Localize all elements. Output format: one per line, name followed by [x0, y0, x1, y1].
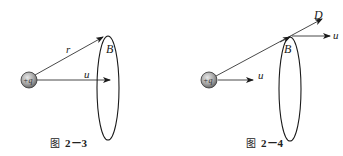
figure-2-3: +q r u B 图 2－3 [21, 36, 119, 149]
charge-label: +q [23, 76, 32, 85]
u-loop-label: u [333, 29, 339, 41]
r-label: r [66, 43, 71, 55]
caption-number: 2－4 [261, 137, 284, 149]
u-label: u [84, 68, 90, 80]
field-point-b-label: B [284, 42, 292, 56]
charge-label: +q [203, 76, 212, 85]
caption-prefix: 图 [246, 138, 256, 149]
caption-prefix: 图 [50, 138, 60, 149]
diagram-canvas: +q r u B 图 2－3 +q D u u B 图 2－4 [0, 0, 343, 156]
figure-2-4: +q D u u B 图 2－4 [201, 8, 339, 149]
field-point-b-label: B [106, 42, 114, 56]
d-label: D [313, 8, 323, 22]
u-charge-label: u [258, 69, 264, 81]
d-vector-arrow [216, 19, 322, 76]
caption-number: 2－3 [65, 137, 88, 149]
